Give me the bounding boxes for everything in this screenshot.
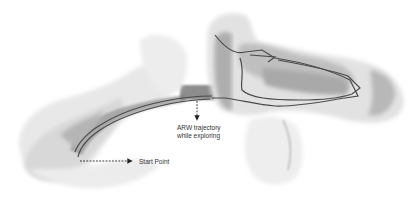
trajectory-label-line2: while exploring (177, 132, 221, 140)
trajectory-label-line1: ARW trajectory (177, 124, 221, 132)
right-cave-region (207, 13, 404, 184)
point-cloud-figure: ARW trajectory while exploring Start Poi… (0, 0, 420, 214)
point-cloud-map (0, 0, 420, 214)
trajectory-annotation: ARW trajectory while exploring (177, 124, 221, 139)
start-point-annotation: Start Point (139, 158, 169, 166)
